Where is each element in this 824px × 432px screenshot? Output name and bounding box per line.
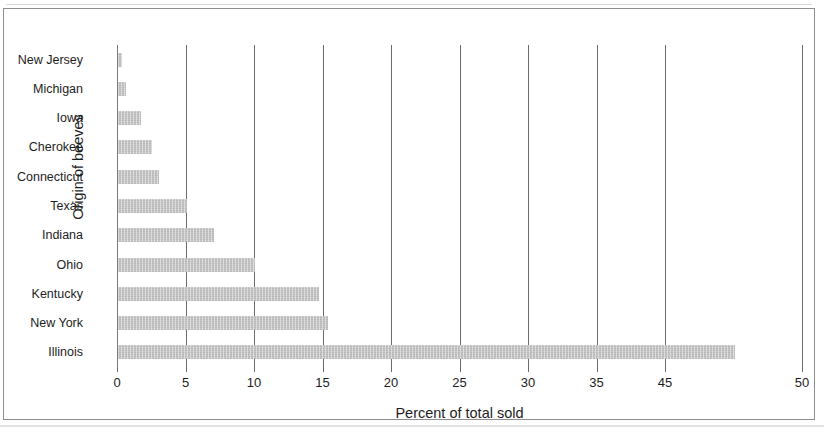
x-tick-mark-0 <box>117 367 118 372</box>
gridline-45 <box>665 45 666 367</box>
bar-new-york <box>118 316 328 330</box>
bar-indiana <box>118 228 214 242</box>
gridline-50 <box>802 45 803 367</box>
x-tick-label-25: 25 <box>430 375 490 390</box>
x-tick-label-35: 35 <box>567 375 627 390</box>
category-label-texas: Texas <box>0 199 83 213</box>
category-label-indiana: Indiana <box>0 228 83 242</box>
plot-area: New JerseyMichiganIowaCherokeeConnecticu… <box>117 45 802 367</box>
category-label-new-jersey: New Jersey <box>0 53 83 67</box>
category-label-kentucky: Kentucky <box>0 287 83 301</box>
bar-cherokee <box>118 140 152 154</box>
x-tick-label-20: 20 <box>361 375 421 390</box>
x-tick-label-10: 10 <box>224 375 284 390</box>
x-tick-mark-25 <box>460 367 461 372</box>
x-tick-mark-30 <box>528 367 529 372</box>
x-tick-mark-50 <box>802 367 803 372</box>
x-tick-label-5: 5 <box>156 375 216 390</box>
category-label-ohio: Ohio <box>0 258 83 272</box>
x-tick-mark-35 <box>597 367 598 372</box>
gridline-20 <box>391 45 392 367</box>
category-label-iowa: Iowa <box>0 111 83 125</box>
gridline-30 <box>528 45 529 367</box>
bar-new-jersey <box>118 53 122 67</box>
bar-texas <box>118 199 187 213</box>
x-tick-mark-45 <box>665 367 666 372</box>
x-axis-title: Percent of total sold <box>117 405 802 421</box>
bar-kentucky <box>118 287 319 301</box>
x-tick-label-0: 0 <box>87 375 147 390</box>
gridline-25 <box>460 45 461 367</box>
category-label-cherokee: Cherokee <box>0 140 83 154</box>
x-tick-mark-15 <box>323 367 324 372</box>
x-tick-mark-20 <box>391 367 392 372</box>
bar-illinois <box>118 345 735 359</box>
x-tick-mark-5 <box>186 367 187 372</box>
bar-ohio <box>118 258 255 272</box>
gridline-35 <box>597 45 598 367</box>
scan-artifact-top-line <box>6 4 812 5</box>
category-label-illinois: Illinois <box>0 345 83 359</box>
x-tick-label-15: 15 <box>293 375 353 390</box>
x-tick-label-50: 50 <box>772 375 824 390</box>
bar-connecticut <box>118 170 159 184</box>
category-label-new-york: New York <box>0 316 83 330</box>
category-label-connecticut: Connecticut <box>0 170 83 184</box>
category-label-michigan: Michigan <box>0 82 83 96</box>
scan-artifact-bottom-line <box>0 425 824 427</box>
bar-michigan <box>118 82 126 96</box>
bar-iowa <box>118 111 141 125</box>
x-tick-label-45: 45 <box>635 375 695 390</box>
x-tick-mark-10 <box>254 367 255 372</box>
figure-frame: Origin of beeves New JerseyMichiganIowaC… <box>3 8 815 420</box>
x-tick-label-30: 30 <box>498 375 558 390</box>
